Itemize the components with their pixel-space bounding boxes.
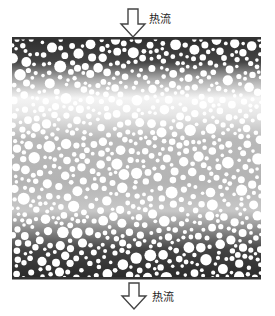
particle bbox=[172, 227, 178, 233]
particle bbox=[48, 108, 52, 112]
particle bbox=[41, 74, 45, 78]
particle bbox=[116, 145, 126, 155]
particle bbox=[47, 70, 52, 75]
particle bbox=[35, 97, 39, 101]
particle bbox=[160, 120, 166, 126]
particle bbox=[185, 218, 189, 222]
particle bbox=[126, 165, 130, 169]
particle bbox=[33, 110, 37, 114]
particle bbox=[79, 268, 84, 273]
particle bbox=[190, 161, 195, 166]
particle bbox=[116, 99, 123, 106]
particle bbox=[132, 86, 136, 90]
particle bbox=[222, 179, 227, 184]
particle bbox=[238, 146, 242, 150]
particle bbox=[115, 61, 120, 66]
particle bbox=[68, 238, 73, 243]
particle bbox=[48, 170, 52, 174]
particle bbox=[13, 271, 20, 278]
particle bbox=[57, 118, 61, 122]
particle bbox=[169, 126, 173, 130]
particle bbox=[134, 193, 139, 198]
particle bbox=[84, 196, 88, 200]
particle bbox=[126, 193, 131, 198]
particle bbox=[53, 123, 57, 127]
particle bbox=[138, 130, 143, 135]
particle bbox=[199, 79, 204, 84]
particle bbox=[110, 180, 116, 186]
particle bbox=[171, 264, 175, 268]
particle bbox=[205, 212, 214, 221]
particle bbox=[247, 41, 257, 51]
particle bbox=[106, 133, 111, 138]
particle bbox=[64, 193, 72, 201]
particle bbox=[81, 44, 85, 48]
particle bbox=[160, 66, 164, 70]
particle bbox=[157, 128, 167, 138]
particle bbox=[34, 71, 38, 75]
particle bbox=[24, 141, 33, 150]
particle bbox=[233, 94, 237, 98]
particle bbox=[114, 236, 119, 241]
particle bbox=[167, 259, 172, 264]
particle bbox=[73, 142, 79, 148]
particle bbox=[232, 175, 237, 180]
particle bbox=[104, 112, 111, 119]
particle bbox=[56, 127, 60, 131]
particle bbox=[244, 71, 248, 75]
particle bbox=[230, 53, 234, 57]
particle bbox=[147, 119, 156, 128]
particle bbox=[221, 131, 225, 135]
particle bbox=[133, 185, 137, 189]
particle bbox=[191, 194, 196, 199]
particle bbox=[67, 245, 74, 252]
particle bbox=[218, 138, 222, 142]
particle bbox=[164, 51, 169, 56]
particle bbox=[238, 109, 242, 113]
particle bbox=[254, 104, 259, 109]
particle bbox=[95, 198, 99, 202]
particle bbox=[40, 188, 44, 192]
particle bbox=[81, 143, 86, 148]
particle bbox=[259, 76, 263, 80]
particle bbox=[111, 229, 116, 234]
particle bbox=[96, 160, 105, 169]
particle bbox=[161, 74, 166, 79]
particle bbox=[110, 152, 114, 156]
particle bbox=[131, 168, 142, 179]
particle bbox=[155, 80, 160, 85]
particle bbox=[147, 196, 153, 202]
particle bbox=[44, 136, 48, 140]
particle bbox=[188, 201, 192, 205]
particle bbox=[69, 43, 75, 49]
particle bbox=[143, 75, 148, 80]
particle bbox=[103, 249, 107, 253]
particle bbox=[149, 245, 153, 249]
particle bbox=[216, 219, 220, 223]
particle bbox=[193, 185, 197, 189]
particle bbox=[211, 70, 217, 76]
particle bbox=[67, 222, 73, 228]
particle bbox=[57, 227, 69, 239]
particle bbox=[230, 124, 234, 128]
particle bbox=[73, 256, 79, 262]
particle bbox=[33, 179, 38, 184]
particle bbox=[215, 164, 221, 170]
particle bbox=[46, 252, 51, 257]
particle bbox=[218, 264, 228, 274]
packed-bed-diagram bbox=[0, 0, 275, 316]
particle bbox=[57, 147, 61, 151]
particle bbox=[86, 96, 95, 105]
particle bbox=[23, 186, 27, 190]
particle bbox=[124, 85, 128, 89]
particle bbox=[200, 254, 211, 265]
particle bbox=[63, 157, 71, 165]
particle bbox=[102, 255, 106, 259]
particle bbox=[189, 45, 199, 55]
particle bbox=[91, 183, 98, 190]
particle bbox=[241, 98, 247, 104]
particle bbox=[96, 259, 101, 264]
particle bbox=[238, 82, 242, 86]
particle bbox=[203, 119, 208, 124]
particle bbox=[223, 75, 233, 85]
